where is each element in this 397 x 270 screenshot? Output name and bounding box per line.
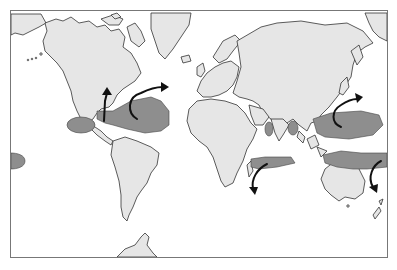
land-greenland xyxy=(151,13,191,59)
land-scandinavia xyxy=(213,35,241,63)
land-south-america xyxy=(111,137,159,221)
zone-west-pacific xyxy=(313,111,383,139)
land-aleutians xyxy=(27,59,29,61)
zone-arabian-sea xyxy=(265,122,273,136)
land-iceland xyxy=(181,55,191,63)
land-alaska xyxy=(11,14,46,35)
land-tasmania xyxy=(347,205,349,207)
zone-south-indian xyxy=(251,157,295,169)
arrowhead-west-pacific-icon xyxy=(355,93,363,103)
land-new-zealand xyxy=(379,199,383,205)
world-map xyxy=(10,10,388,258)
land-britain xyxy=(197,63,205,77)
zone-central-pacific-edge xyxy=(11,153,25,169)
land-antarctica xyxy=(117,233,157,257)
arrowhead-atlantic-icon xyxy=(161,82,169,92)
arrowhead-south-indian-icon xyxy=(249,187,258,195)
zone-east-pacific xyxy=(67,117,95,133)
arrowhead-south-pacific-icon xyxy=(369,184,378,193)
zone-bay-of-bengal xyxy=(288,121,298,135)
land-india xyxy=(271,119,289,141)
land-africa xyxy=(187,99,257,187)
